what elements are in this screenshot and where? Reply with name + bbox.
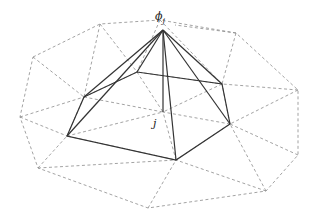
node-label: j — [150, 117, 157, 130]
hat-function-diagram: ϕj j — [0, 0, 316, 217]
hat-pyramid — [67, 30, 230, 160]
apex-label: ϕj — [155, 10, 166, 25]
mesh-edges — [20, 20, 298, 208]
